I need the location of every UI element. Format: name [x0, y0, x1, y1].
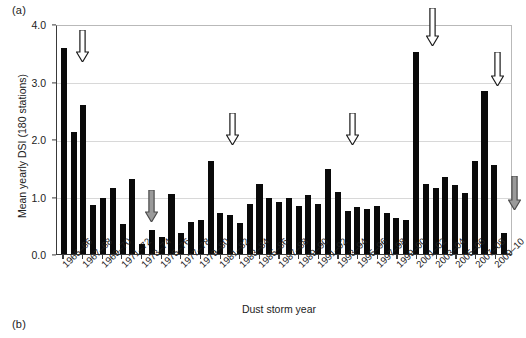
- bar-slot: [401, 26, 411, 254]
- figure-panel-a: (a) (b) Mean yearly DSI (180 stations) 0…: [0, 0, 526, 338]
- bar-slot: [98, 26, 108, 254]
- bar-slot: [421, 26, 431, 254]
- bar-slot: [206, 26, 216, 254]
- panel-b-label: (b): [12, 318, 26, 330]
- arrow-white-5-icon: [491, 52, 504, 86]
- bar-slot: [313, 26, 323, 254]
- bar-slot: [176, 26, 186, 254]
- bar: [481, 91, 487, 254]
- bar-slot: [118, 26, 128, 254]
- bar-slot: [460, 26, 470, 254]
- bar-slot: [440, 26, 450, 254]
- bar-slot: [59, 26, 69, 254]
- y-tick-label: 2.0: [31, 134, 46, 146]
- bar-slot: [186, 26, 196, 254]
- arrow-white-4-icon: [426, 8, 439, 46]
- arrow-white-3-icon: [346, 113, 359, 145]
- y-tick-label: 0.0: [31, 249, 46, 261]
- bar-slot: [167, 26, 177, 254]
- bar-slot: [127, 26, 137, 254]
- bar-slot: [382, 26, 392, 254]
- bar-slot: [411, 26, 421, 254]
- bar-slot: [431, 26, 441, 254]
- y-axis: Mean yearly DSI (180 stations) 0.01.02.0…: [0, 0, 56, 280]
- bar-slot: [333, 26, 343, 254]
- bar-slot: [274, 26, 284, 254]
- bar: [71, 132, 77, 254]
- bar-slot: [284, 26, 294, 254]
- y-tick-label: 3.0: [31, 77, 46, 89]
- plot-area: [56, 25, 512, 255]
- bar-slot: [450, 26, 460, 254]
- bar-slot: [323, 26, 333, 254]
- bar-slot: [255, 26, 265, 254]
- bar-slot: [304, 26, 314, 254]
- arrow-grey-2-icon: [508, 176, 521, 210]
- bar-slot: [264, 26, 274, 254]
- y-tick-label: 4.0: [31, 19, 46, 31]
- bar-slot: [245, 26, 255, 254]
- bar-series: [57, 26, 511, 254]
- bar: [80, 105, 86, 255]
- arrow-white-1-icon: [76, 30, 89, 62]
- bar: [61, 48, 67, 254]
- bar: [413, 52, 419, 254]
- bar-slot: [392, 26, 402, 254]
- bar-slot: [88, 26, 98, 254]
- bar-slot: [470, 26, 480, 254]
- y-tick-label: 1.0: [31, 192, 46, 204]
- y-axis-title: Mean yearly DSI (180 stations): [16, 51, 28, 241]
- x-axis-title: Dust storm year: [0, 303, 526, 315]
- bar-slot: [480, 26, 490, 254]
- arrow-white-2-icon: [226, 113, 239, 145]
- bar-slot: [372, 26, 382, 254]
- arrow-grey-1-icon: [145, 190, 158, 222]
- bar-slot: [196, 26, 206, 254]
- bar-slot: [108, 26, 118, 254]
- bar-slot: [362, 26, 372, 254]
- bar-slot: [157, 26, 167, 254]
- bar-slot: [216, 26, 226, 254]
- bar-slot: [294, 26, 304, 254]
